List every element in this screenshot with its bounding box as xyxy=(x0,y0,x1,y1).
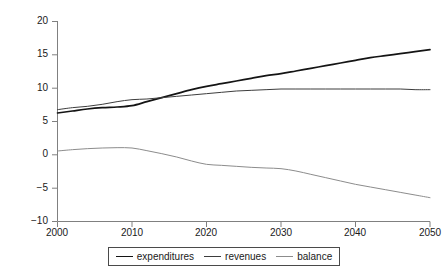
legend-swatch-line-icon-expenditures xyxy=(116,256,133,257)
legend-swatch-line-icon-balance xyxy=(276,256,293,257)
legend-swatch-line-icon-revenues xyxy=(204,256,221,257)
legend-label-balance: balance xyxy=(297,252,332,262)
legend-item-expenditures: expenditures xyxy=(116,252,194,262)
axis-lines xyxy=(58,21,431,222)
legend-item-revenues: revenues xyxy=(204,252,266,262)
chart-legend: expenditures revenues balance xyxy=(108,247,340,266)
legend-item-balance: balance xyxy=(276,252,332,262)
data-series-group xyxy=(58,50,431,198)
x-axis-ticks xyxy=(58,222,431,228)
legend-label-expenditures: expenditures xyxy=(137,252,194,262)
line-expenditures xyxy=(58,50,431,113)
legend-label-revenues: revenues xyxy=(225,252,266,262)
line-balance xyxy=(58,148,431,198)
y-axis-ticks xyxy=(52,22,58,222)
